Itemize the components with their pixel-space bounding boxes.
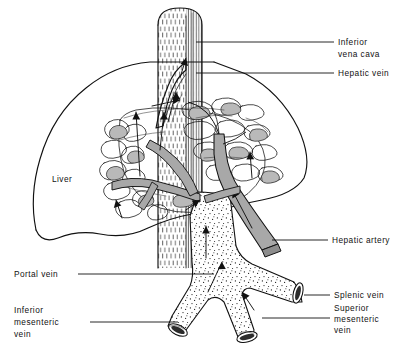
hepatic-circulation-diagram: Inferior vena cava Hepatic vein Hepatic … bbox=[0, 0, 411, 359]
label-inferior-vena-cava-line1: Inferior bbox=[338, 37, 367, 47]
label-inferior-vena-cava-line2: vena cava bbox=[338, 49, 380, 59]
label-superior-mesenteric-line1: Superior bbox=[334, 303, 369, 313]
label-superior-mesenteric-line3: vein bbox=[334, 325, 351, 335]
label-inferior-mesenteric-line2: mesenteric bbox=[14, 317, 59, 327]
label-portal-vein: Portal vein bbox=[14, 269, 58, 279]
label-hepatic-artery: Hepatic artery bbox=[332, 235, 390, 245]
label-liver: Liver bbox=[52, 174, 72, 184]
label-hepatic-vein: Hepatic vein bbox=[338, 68, 389, 78]
label-inferior-mesenteric-line1: Inferior bbox=[14, 305, 43, 315]
label-superior-mesenteric-line2: mesenteric bbox=[334, 314, 379, 324]
label-inferior-mesenteric-line3: vein bbox=[14, 329, 31, 339]
label-splenic-vein: Splenic vein bbox=[334, 290, 384, 300]
